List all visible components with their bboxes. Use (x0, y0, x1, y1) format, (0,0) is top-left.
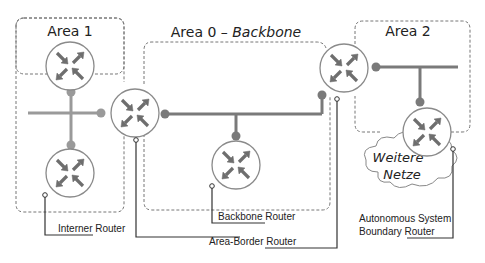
backbone-network (161, 91, 327, 141)
label-area-border-router: Area-Border Router (209, 236, 297, 247)
ospf-diagram: Area 1 Area 0 – Backbone Area 2 Weitere … (0, 0, 485, 263)
router-icon (403, 108, 451, 156)
cloud-label-line2: Netze (383, 167, 421, 182)
router-icon (111, 89, 159, 137)
router-icon (46, 149, 94, 197)
router-icon (212, 141, 260, 189)
label-asbr-line2: Boundary Router (359, 226, 435, 237)
label-backbone-router: Backbone Router (218, 211, 296, 222)
label-asbr-line1: Autonomous System (359, 213, 451, 224)
area-2-network (372, 63, 459, 107)
area-1-network (28, 88, 106, 150)
area-2-title: Area 2 (385, 23, 431, 39)
label-internal-router: Interner Router (58, 223, 126, 234)
router-icon (46, 42, 94, 90)
area-0-title: Area 0 – Backbone (171, 24, 301, 40)
router-icon (320, 44, 368, 92)
area-1-title: Area 1 (47, 23, 93, 39)
